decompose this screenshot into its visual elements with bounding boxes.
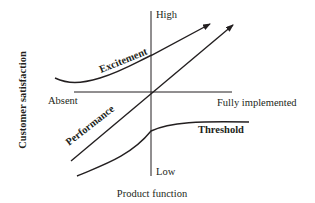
y-axis-title: Customer satisfaction (17, 51, 28, 149)
kano-diagram: High Low Absent Fully implemented Excite… (0, 0, 315, 203)
x-axis-title: Product function (117, 188, 188, 199)
label-threshold: Threshold (198, 124, 244, 135)
label-fully-implemented: Fully implemented (217, 97, 297, 108)
label-absent: Absent (48, 95, 78, 106)
performance-curve (71, 25, 233, 161)
label-performance: Performance (63, 103, 116, 148)
label-low: Low (156, 166, 176, 177)
label-high: High (156, 9, 178, 20)
